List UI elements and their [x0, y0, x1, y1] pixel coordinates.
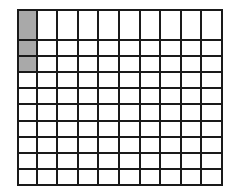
grid-cell-unshaded[interactable] — [120, 105, 141, 121]
grid-cell-unshaded[interactable] — [202, 57, 223, 73]
grid-cell-unshaded[interactable] — [99, 9, 120, 41]
grid-cell-unshaded[interactable] — [38, 105, 59, 121]
grid-cell-unshaded[interactable] — [58, 154, 79, 170]
grid-cell-unshaded[interactable] — [141, 154, 162, 170]
grid-cell-unshaded[interactable] — [38, 138, 59, 154]
grid-cell-unshaded[interactable] — [38, 89, 59, 105]
grid-cell-unshaded[interactable] — [38, 154, 59, 170]
grid-cell-unshaded[interactable] — [38, 122, 59, 138]
grid-cell-unshaded[interactable] — [120, 170, 141, 186]
grid-cell-unshaded[interactable] — [161, 73, 182, 89]
grid-cell-unshaded[interactable] — [99, 89, 120, 105]
grid-cell-unshaded[interactable] — [120, 122, 141, 138]
grid-cell-unshaded[interactable] — [17, 73, 38, 89]
grid-cell-unshaded[interactable] — [79, 41, 100, 57]
grid-cell-unshaded[interactable] — [141, 41, 162, 57]
grid-cell-unshaded[interactable] — [99, 41, 120, 57]
grid-cell-unshaded[interactable] — [161, 41, 182, 57]
grid-cell-unshaded[interactable] — [120, 41, 141, 57]
grid-cell-unshaded[interactable] — [120, 89, 141, 105]
grid-cell-unshaded[interactable] — [99, 105, 120, 121]
grid-cell-unshaded[interactable] — [182, 154, 203, 170]
grid-cell-unshaded[interactable] — [79, 122, 100, 138]
grid-cell-unshaded[interactable] — [161, 170, 182, 186]
grid-cell-unshaded[interactable] — [161, 154, 182, 170]
grid-cell-unshaded[interactable] — [120, 154, 141, 170]
grid-cell-unshaded[interactable] — [79, 154, 100, 170]
grid-cell-unshaded[interactable] — [99, 122, 120, 138]
grid-cell-unshaded[interactable] — [38, 57, 59, 73]
grid-cell-unshaded[interactable] — [202, 73, 223, 89]
grid-cell-unshaded[interactable] — [202, 105, 223, 121]
grid-cell-unshaded[interactable] — [58, 73, 79, 89]
grid-cell-unshaded[interactable] — [141, 9, 162, 41]
grid-cell-unshaded[interactable] — [182, 89, 203, 105]
grid-cell-unshaded[interactable] — [182, 122, 203, 138]
grid-cell-unshaded[interactable] — [99, 170, 120, 186]
grid-cell-unshaded[interactable] — [182, 9, 203, 41]
grid-cell-unshaded[interactable] — [58, 41, 79, 57]
grid-cell-unshaded[interactable] — [141, 73, 162, 89]
grid-cell-unshaded[interactable] — [99, 57, 120, 73]
grid-cell-unshaded[interactable] — [79, 138, 100, 154]
grid-cell-unshaded[interactable] — [141, 57, 162, 73]
grid-cell-unshaded[interactable] — [202, 89, 223, 105]
grid-cell-unshaded[interactable] — [141, 89, 162, 105]
grid-cell-unshaded[interactable] — [161, 138, 182, 154]
grid-cell-unshaded[interactable] — [202, 138, 223, 154]
grid-cell-unshaded[interactable] — [202, 122, 223, 138]
grid-cell-unshaded[interactable] — [79, 57, 100, 73]
grid-cell-unshaded[interactable] — [141, 170, 162, 186]
grid-cell-unshaded[interactable] — [58, 89, 79, 105]
grid-cell-unshaded[interactable] — [79, 89, 100, 105]
grid-cell-unshaded[interactable] — [17, 138, 38, 154]
grid-cell-unshaded[interactable] — [58, 170, 79, 186]
grid-cell-unshaded[interactable] — [182, 41, 203, 57]
grid-cell-unshaded[interactable] — [38, 9, 59, 41]
grid-cell-unshaded[interactable] — [38, 41, 59, 57]
grid-cell-unshaded[interactable] — [161, 122, 182, 138]
grid-cell-unshaded[interactable] — [79, 9, 100, 41]
grid-cell-unshaded[interactable] — [202, 170, 223, 186]
grid-cell-unshaded[interactable] — [120, 57, 141, 73]
grid-cell-unshaded[interactable] — [202, 154, 223, 170]
grid-cell-unshaded[interactable] — [38, 73, 59, 89]
grid-cell-unshaded[interactable] — [17, 89, 38, 105]
grid-cell-unshaded[interactable] — [141, 122, 162, 138]
grid-cell-unshaded[interactable] — [182, 105, 203, 121]
grid-cell-unshaded[interactable] — [120, 138, 141, 154]
grid-cell-shaded[interactable] — [17, 41, 38, 57]
grid-cell-unshaded[interactable] — [99, 73, 120, 89]
grid-cell-unshaded[interactable] — [120, 9, 141, 41]
grid-cell-unshaded[interactable] — [79, 73, 100, 89]
grid-cell-unshaded[interactable] — [202, 9, 223, 41]
grid-cell-unshaded[interactable] — [161, 57, 182, 73]
grid-cell-unshaded[interactable] — [141, 105, 162, 121]
grid-cell-unshaded[interactable] — [182, 170, 203, 186]
grid-cell-shaded[interactable] — [17, 57, 38, 73]
grid-cell-unshaded[interactable] — [182, 73, 203, 89]
grid-cell-unshaded[interactable] — [58, 138, 79, 154]
grid-cell-unshaded[interactable] — [17, 105, 38, 121]
grid-cell-unshaded[interactable] — [58, 57, 79, 73]
grid-cell-unshaded[interactable] — [17, 122, 38, 138]
grid-cell-unshaded[interactable] — [79, 170, 100, 186]
grid-cell-unshaded[interactable] — [161, 9, 182, 41]
grid-cell-unshaded[interactable] — [79, 105, 100, 121]
grid-cell-unshaded[interactable] — [99, 154, 120, 170]
grid-cell-unshaded[interactable] — [17, 154, 38, 170]
grid-cell-unshaded[interactable] — [161, 105, 182, 121]
grid-cell-unshaded[interactable] — [99, 138, 120, 154]
grid-cell-unshaded[interactable] — [182, 138, 203, 154]
grid-cell-unshaded[interactable] — [17, 170, 38, 186]
grid-cell-shaded[interactable] — [17, 9, 38, 41]
grid-cell-unshaded[interactable] — [161, 89, 182, 105]
grid-cell-unshaded[interactable] — [58, 9, 79, 41]
grid-cell-unshaded[interactable] — [38, 170, 59, 186]
grid-cell-unshaded[interactable] — [141, 138, 162, 154]
grid-cell-unshaded[interactable] — [58, 122, 79, 138]
grid-cell-unshaded[interactable] — [120, 73, 141, 89]
grid-cell-unshaded[interactable] — [202, 41, 223, 57]
grid-cell-unshaded[interactable] — [182, 57, 203, 73]
grid-cell-unshaded[interactable] — [58, 105, 79, 121]
